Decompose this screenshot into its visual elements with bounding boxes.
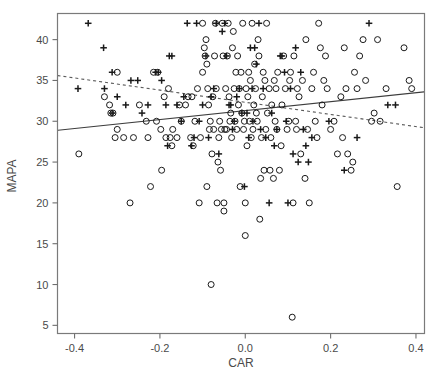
data-point-circle — [293, 126, 299, 132]
data-point-circle — [218, 167, 224, 173]
data-point-plus — [245, 134, 252, 141]
data-point-circle — [196, 200, 202, 206]
data-point-circle — [275, 69, 281, 75]
data-point-circle — [229, 135, 235, 141]
data-point-plus — [134, 77, 141, 84]
data-point-plus — [216, 151, 223, 158]
data-point-circle — [260, 69, 266, 75]
data-point-circle — [271, 77, 277, 83]
data-point-circle — [154, 118, 160, 124]
data-point-circle — [264, 20, 270, 26]
scatter-plot-figure: -0.4-0.20.00.20.4 510152025303540 CAR MA… — [0, 0, 442, 381]
data-point-circle — [136, 102, 142, 108]
data-point-circle — [200, 20, 206, 26]
data-point-circle — [340, 135, 346, 141]
data-point-circle — [294, 86, 300, 92]
data-point-plus — [205, 134, 212, 141]
y-tick-label: 20 — [36, 197, 48, 209]
data-point-circle — [217, 118, 223, 124]
data-point-circle — [288, 69, 294, 75]
data-point-circle — [247, 77, 253, 83]
data-point-plus — [233, 93, 240, 100]
data-point-circle — [243, 86, 249, 92]
data-point-circle — [287, 77, 293, 83]
data-point-circle — [148, 184, 154, 190]
data-point-plus — [303, 142, 310, 149]
data-point-plus — [260, 85, 267, 92]
y-tick-label: 15 — [36, 238, 48, 250]
data-point-circle — [352, 69, 358, 75]
data-point-circle — [235, 53, 241, 59]
data-point-circle — [284, 126, 290, 132]
data-point-circle — [242, 200, 248, 206]
data-point-circle — [235, 102, 241, 108]
data-point-plus — [219, 28, 226, 35]
data-point-circle — [334, 151, 340, 157]
data-point-circle — [216, 135, 222, 141]
data-point-circle — [302, 175, 308, 181]
data-point-plus — [101, 85, 108, 92]
data-point-plus — [285, 200, 292, 207]
data-point-circle — [203, 37, 209, 43]
data-point-plus — [281, 69, 288, 76]
data-point-plus — [114, 93, 121, 100]
data-point-circle — [207, 118, 213, 124]
data-point-plus — [208, 93, 215, 100]
y-tick-label: 10 — [36, 279, 48, 291]
data-point-circle — [246, 69, 252, 75]
data-point-circle — [303, 37, 309, 43]
y-tick-label: 35 — [36, 74, 48, 86]
data-point-circle — [214, 200, 220, 206]
data-point-circle — [167, 135, 173, 141]
y-axis-label: MAPA — [5, 159, 19, 192]
data-point-plus — [292, 44, 299, 51]
data-point-plus — [210, 85, 217, 92]
data-point-plus — [287, 85, 294, 92]
data-point-circle — [311, 69, 317, 75]
data-point-circle — [324, 86, 330, 92]
data-point-plus — [184, 20, 191, 27]
data-point-plus — [271, 142, 278, 149]
data-point-circle — [194, 86, 200, 92]
y-axis-tick-labels: 510152025303540 — [36, 34, 48, 332]
data-point-circle — [161, 94, 167, 100]
data-point-circle — [321, 77, 327, 83]
data-point-circle — [121, 135, 127, 141]
data-point-circle — [272, 118, 278, 124]
data-point-circle — [174, 135, 180, 141]
x-tick-label: 0.4 — [408, 342, 423, 354]
data-point-plus — [309, 134, 316, 141]
data-point-plus — [163, 102, 170, 109]
data-point-plus — [199, 102, 206, 109]
data-point-circle — [299, 77, 305, 83]
x-tick-label: 0.0 — [238, 342, 253, 354]
data-point-circle — [375, 37, 381, 43]
data-point-plus — [305, 159, 312, 166]
data-point-circle — [204, 61, 210, 67]
data-point-circle — [159, 167, 165, 173]
data-point-circle — [406, 77, 412, 83]
data-point-circle — [158, 126, 164, 132]
data-point-circle — [251, 102, 257, 108]
data-point-circle — [114, 126, 120, 132]
data-point-plus — [385, 102, 392, 109]
data-point-plus — [257, 126, 264, 133]
data-point-circle — [371, 110, 377, 116]
data-point-circle — [204, 184, 210, 190]
data-point-circle — [197, 135, 203, 141]
data-point-circle — [189, 94, 195, 100]
x-axis-tick-labels: -0.4-0.20.00.20.4 — [65, 342, 424, 354]
data-point-circle — [170, 126, 176, 132]
data-point-circle — [256, 53, 262, 59]
data-point-circle — [298, 151, 304, 157]
data-point-plus — [122, 102, 129, 109]
data-point-circle — [261, 167, 267, 173]
data-point-plus — [251, 44, 258, 51]
data-point-circle — [183, 102, 189, 108]
data-point-circle — [244, 143, 250, 149]
data-point-circle — [341, 45, 347, 51]
data-point-circle — [76, 151, 82, 157]
data-point-circle — [241, 126, 247, 132]
data-point-circle — [245, 94, 251, 100]
data-point-circle — [208, 282, 214, 288]
